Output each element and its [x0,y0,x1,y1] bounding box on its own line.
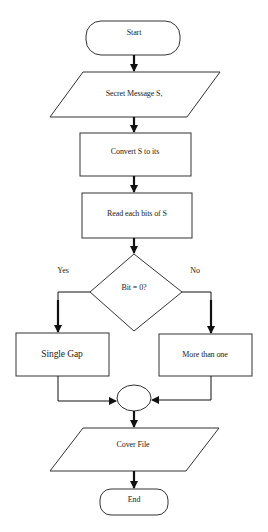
more-than-one-to-merge-connector [152,376,211,400]
yes-branch-connector [58,292,90,332]
merge-connector-circle [117,385,151,411]
start-terminal [86,21,180,55]
read-bits-label: Read each bits of S [107,209,167,219]
flowchart-canvas [0,0,268,532]
input-message-label: Secret Message S, [106,89,163,99]
no-branch-label: No [190,266,200,276]
single-gap-label: Single Gap [41,349,82,359]
end-label: End [128,495,141,505]
single-gap-to-merge-connector [58,376,116,401]
convert-label: Convert S to its [111,147,159,157]
decision-label: Bit = 0? [121,283,146,293]
flowchart: Start Secret Message S, Convert S to its… [0,0,268,532]
start-label: Start [127,28,142,38]
no-branch-connector [182,292,211,333]
yes-branch-label: Yes [57,266,68,276]
cover-file-label: Cover File [117,440,150,450]
more-than-one-label: More than one [182,350,227,360]
